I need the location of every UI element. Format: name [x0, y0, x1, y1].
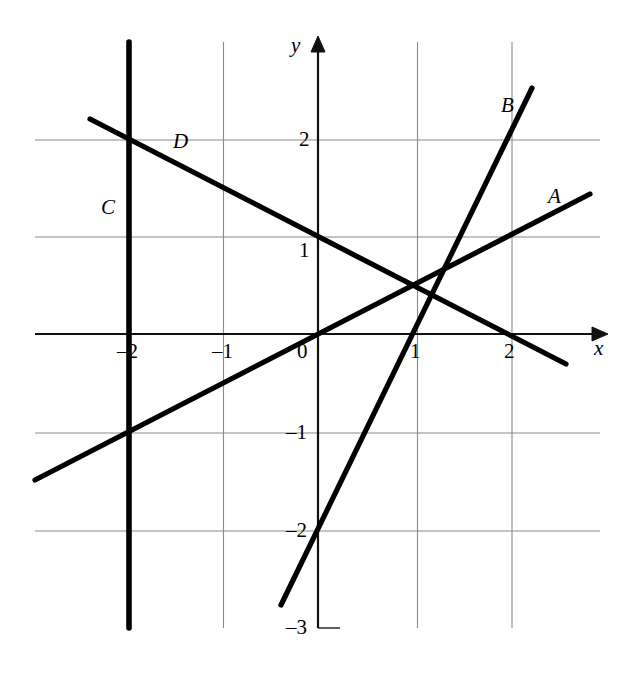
graph-figure: –2 –1 0 1 2 2 1 –1 –2 –3 y x A B C D — [0, 0, 638, 677]
x-tick-label-2: 2 — [504, 341, 515, 362]
x-tick-label-neg2: –2 — [117, 341, 138, 362]
y-tick-label-2: 2 — [299, 129, 310, 150]
y-tick-label-neg2: –2 — [286, 520, 307, 541]
y-axis-label: y — [291, 35, 300, 56]
y-tick-label-neg3: –3 — [286, 617, 307, 638]
coordinate-plane — [0, 0, 638, 677]
line-label-d: D — [173, 131, 188, 152]
y-axis-arrowhead — [311, 36, 325, 52]
y-tick-label-neg1: –1 — [286, 422, 307, 443]
x-axis-label: x — [594, 338, 603, 359]
y-tick-label-1: 1 — [299, 240, 310, 261]
line-label-b: B — [501, 95, 514, 116]
x-tick-label-0: 0 — [297, 341, 308, 362]
line-label-c: C — [101, 197, 115, 218]
line-label-a: A — [548, 186, 561, 207]
x-tick-label-neg1: –1 — [212, 341, 233, 362]
x-tick-label-1: 1 — [410, 341, 421, 362]
